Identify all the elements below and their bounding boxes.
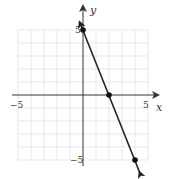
point-4-neg5: [132, 157, 138, 163]
y-tick-5: 5: [75, 25, 81, 35]
y-axis-label: y: [89, 4, 97, 17]
x-axis-label: x: [156, 101, 163, 114]
x-tick-neg5: −5: [10, 100, 24, 110]
y-tick-neg5: −5: [70, 155, 84, 165]
point-2-0: [106, 92, 112, 98]
coordinate-plane: x y −5 5 5 −5: [0, 0, 170, 179]
point-0-5: [80, 27, 86, 33]
x-tick-5: 5: [143, 100, 149, 110]
